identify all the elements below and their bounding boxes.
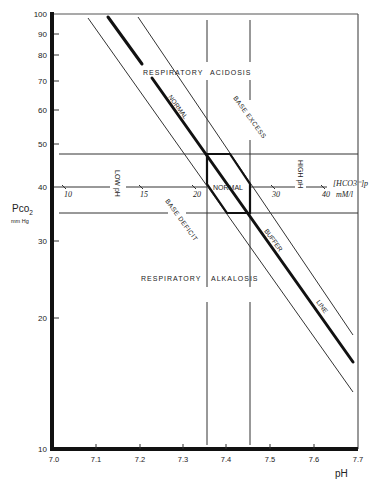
acid-base-diagram: 100 90 80 70 60 50 40 30 20 10 7.0 7.1 7… (0, 0, 385, 485)
x-tick-7.6: 7.6 (309, 455, 319, 464)
hco3-unit: mM/l (336, 190, 354, 199)
x-tick-7.0: 7.0 (49, 455, 59, 464)
x-tick-7.4: 7.4 (221, 455, 231, 464)
hco3-label: [HCO3⁻]p (333, 179, 368, 188)
y-tick-50: 50 (38, 140, 47, 149)
respiratory-acidosis-label-1: RESPIRATORY (143, 69, 203, 76)
x-tick-7.1: 7.1 (91, 455, 101, 464)
x-axis-label: pH (335, 468, 348, 479)
hco3-tick-10: 10 (64, 190, 72, 199)
respiratory-alkalosis-label-2: ALKALOSIS (211, 275, 259, 282)
y-tick-60: 60 (38, 106, 47, 115)
hco3-tick-30: 30 (271, 190, 280, 199)
base-deficit-label: BASE DEFICIT (164, 197, 199, 242)
y-ticks (54, 34, 59, 318)
x-tick-7.3: 7.3 (178, 455, 188, 464)
x-tick-7.2: 7.2 (135, 455, 145, 464)
bicarbonate-tick-labels: 10 15 20 30 40 (64, 190, 330, 199)
y-tick-20: 20 (38, 314, 47, 323)
hco3-tick-15: 15 (140, 190, 148, 199)
y-tick-90: 90 (38, 30, 47, 39)
y-tick-10: 10 (38, 445, 47, 454)
y-tick-labels: 100 90 80 70 60 50 40 30 20 10 (34, 10, 48, 454)
y-tick-100: 100 (34, 10, 48, 19)
y-axis-unit: mm Hg (11, 218, 29, 224)
y-axis-label: Pco2 (12, 203, 33, 216)
y-tick-80: 80 (38, 51, 47, 60)
respiratory-acidosis-label-2: ACIDOSIS (210, 69, 251, 76)
bicarbonate-scale-line (54, 185, 327, 189)
low-ph-label: LOW pH (113, 170, 121, 197)
high-ph-label: HIGH pH (296, 160, 304, 188)
respiratory-alkalosis-label-1: RESPIRATORY (141, 275, 201, 282)
normal-label: NORMAL (213, 184, 243, 191)
hco3-tick-40: 40 (322, 190, 330, 199)
base-excess-label: BASE EXCESS (232, 94, 268, 140)
x-tick-labels: 7.0 7.1 7.2 7.3 7.4 7.5 7.6 7.7 (49, 455, 363, 464)
y-tick-30: 30 (38, 237, 47, 246)
x-tick-7.5: 7.5 (265, 455, 275, 464)
ph-vertical-lines (207, 20, 250, 445)
hco3-tick-20: 20 (193, 190, 201, 199)
y-tick-70: 70 (38, 77, 47, 86)
x-tick-7.7: 7.7 (353, 455, 363, 464)
y-tick-40: 40 (38, 183, 47, 192)
